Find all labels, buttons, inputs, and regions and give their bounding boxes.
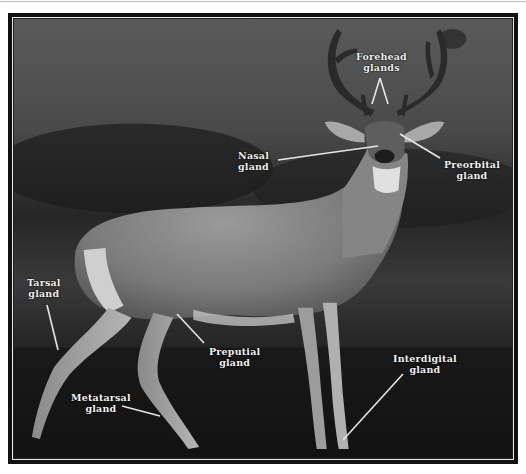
label-line: Tarsal: [27, 277, 61, 288]
label-line: glands: [356, 62, 407, 73]
label-line: Preputial: [209, 346, 260, 357]
top-rule: [0, 1, 526, 2]
label-line: Interdigital: [393, 353, 457, 364]
label-nasal-gland: Nasal gland: [238, 150, 269, 172]
label-line: Nasal: [238, 150, 269, 161]
label-line: Metatarsal: [71, 392, 131, 403]
label-line: Preorbital: [444, 159, 500, 170]
label-line: gland: [27, 288, 61, 299]
label-line: gland: [238, 161, 269, 172]
label-preputial-gland: Preputial gland: [209, 346, 260, 368]
label-metatarsal-gland: Metatarsal gland: [71, 392, 131, 414]
label-interdigital-gland: Interdigital gland: [393, 353, 457, 375]
label-line: gland: [71, 403, 131, 414]
label-line: Forehead: [356, 51, 407, 62]
label-tarsal-gland: Tarsal gland: [27, 277, 61, 299]
label-forehead-glands: Forehead glands: [356, 51, 407, 73]
label-line: gland: [393, 364, 457, 375]
label-preorbital-gland: Preorbital gland: [444, 159, 500, 181]
label-line: gland: [209, 357, 260, 368]
label-line: gland: [444, 170, 500, 181]
